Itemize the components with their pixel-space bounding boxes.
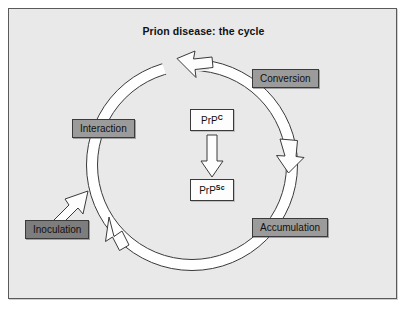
stage-label-conversion: Conversion xyxy=(260,74,311,84)
stage-node-conversion[interactable]: Conversion xyxy=(252,69,319,88)
protein-superscript-prpc: C xyxy=(218,114,223,121)
ring-arrowhead-right xyxy=(277,139,305,173)
prp-conversion-arrow xyxy=(201,135,223,177)
protein-label-prpsc: PrPSc xyxy=(199,184,225,196)
protein-superscript-prpsc: Sc xyxy=(216,184,225,191)
stage-label-accumulation: Accumulation xyxy=(260,223,320,233)
protein-node-prpc[interactable]: PrPC xyxy=(190,109,234,131)
figure-root: Prion disease: the cycle xyxy=(0,0,407,309)
figure-frame: Prion disease: the cycle xyxy=(8,8,397,299)
stage-node-inoculation[interactable]: Inoculation xyxy=(25,220,89,239)
stage-node-interaction[interactable]: Interaction xyxy=(72,119,135,138)
stage-label-interaction: Interaction xyxy=(80,124,127,134)
protein-node-prpsc[interactable]: PrPSc xyxy=(190,179,234,201)
stage-node-accumulation[interactable]: Accumulation xyxy=(252,218,328,237)
protein-label-prpc: PrPC xyxy=(201,114,223,126)
stage-label-inoculation: Inoculation xyxy=(33,225,81,235)
cycle-ring-graphic xyxy=(9,9,398,300)
